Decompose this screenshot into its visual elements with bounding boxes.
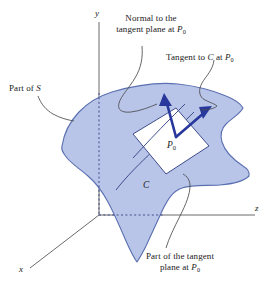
callout-tangent-plane-line1: Part of the tangent (122, 251, 238, 262)
y-axis-label: y (95, 8, 99, 18)
callout-tangent: Tangent to C at P0 (166, 52, 234, 65)
point-p0-label: P0 (167, 140, 176, 151)
callout-normal: Normal to the tangent plane at P0 (101, 13, 201, 37)
callout-tangent-plane-line2-sub: 0 (197, 266, 200, 272)
point-p0-sub: 0 (173, 144, 176, 151)
callout-normal-line1: Normal to the (101, 13, 201, 24)
callout-normal-line2-pre: tangent plane at (116, 24, 177, 34)
surface-s-shape (62, 83, 250, 262)
callout-normal-line2-sub: 0 (183, 28, 186, 34)
surface-s (62, 83, 250, 262)
callout-tangent-mid: at (214, 52, 225, 62)
callout-part-of-s: Part of S (9, 83, 41, 94)
callout-tangent-pre: Tangent to (166, 52, 207, 62)
callout-tangent-plane-line2: plane at P0 (122, 262, 238, 275)
callout-normal-line2: tangent plane at P0 (101, 24, 201, 37)
curve-c-label: C (143, 180, 149, 190)
x-axis-label: x (19, 264, 23, 274)
z-axis-label-text: z (255, 203, 259, 213)
tangent-plane-diagram: y z x Normal to the tangent plane at P0 … (0, 0, 276, 286)
leader-part-of-s (38, 96, 74, 121)
curve-c-label-text: C (143, 180, 149, 190)
y-axis-label-text: y (95, 8, 99, 18)
x-axis-label-text: x (19, 264, 23, 274)
diagram-canvas (0, 0, 276, 286)
callout-tangent-plane: Part of the tangent plane at P0 (122, 251, 238, 275)
callout-tangent-plane-line2-pre: plane at (160, 262, 191, 272)
x-axis (30, 215, 99, 268)
callout-part-of-s-var: S (36, 83, 41, 93)
callout-tangent-sub: 0 (231, 57, 234, 63)
z-axis-label: z (255, 203, 259, 213)
callout-part-of-s-pre: Part of (9, 83, 36, 93)
